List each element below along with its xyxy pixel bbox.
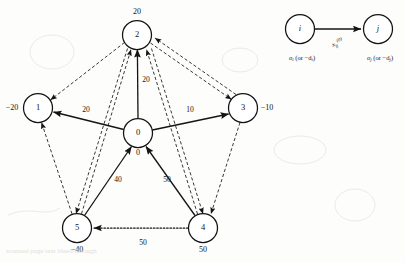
arc-0-to-3 bbox=[152, 114, 228, 130]
node-2[interactable]: 2 bbox=[123, 21, 152, 50]
node-2-id: 2 bbox=[135, 29, 139, 39]
arc-0-to-1 bbox=[54, 112, 124, 130]
legend-arc-flow-label: xij(0) bbox=[329, 36, 344, 50]
legend-label-j-mid: (or −d bbox=[372, 54, 391, 62]
legend-label-i-suffix: ) bbox=[313, 54, 315, 62]
arc-2-to-4 bbox=[152, 49, 204, 215]
legend-arc-sup: (0) bbox=[336, 36, 343, 43]
arc-label-0-to-2: 20 bbox=[142, 75, 150, 84]
arc-label-0-to-3: 10 bbox=[186, 105, 194, 114]
node-4[interactable]: 4 bbox=[189, 214, 218, 243]
scan-bleed-ghosts bbox=[8, 35, 375, 221]
arc-3-to-2 bbox=[155, 38, 236, 95]
node-1-id: 1 bbox=[36, 102, 40, 112]
network-diagram: 0 1 2 3 4 5 0 bbox=[0, 0, 405, 263]
supply-label-node-0: 0 bbox=[136, 148, 140, 157]
scan-bleed-bottom: scanned page text bleed-through bbox=[6, 247, 97, 255]
supply-label-node-4: 50 bbox=[199, 245, 207, 254]
node-5[interactable]: 5 bbox=[63, 214, 92, 243]
node-5-id: 5 bbox=[75, 222, 79, 232]
legend-arc-sub: ij bbox=[335, 43, 340, 49]
arc-2-to-5 bbox=[76, 49, 128, 214]
node-0-id: 0 bbox=[136, 127, 140, 137]
arc-5-to-1 bbox=[42, 123, 73, 214]
node-3-id: 3 bbox=[241, 102, 245, 112]
arc-2-to-1 bbox=[51, 43, 125, 101]
legend-label-j: oj (or −dj) bbox=[367, 54, 393, 62]
supply-label-node-3: −10 bbox=[261, 103, 274, 112]
arc-3-to-4 bbox=[211, 123, 240, 214]
arc-label-4-to-5: 50 bbox=[139, 238, 147, 247]
supply-label-node-2: 20 bbox=[133, 7, 141, 16]
legend-label-j-suffix: ) bbox=[391, 54, 393, 62]
legend-group: i j xij(0) oi (or −di) oj (or −dj) bbox=[286, 15, 394, 62]
arc-0-to-2 bbox=[137, 50, 138, 119]
node-3[interactable]: 3 bbox=[229, 94, 258, 123]
legend-node-j[interactable]: j bbox=[364, 15, 393, 44]
legend-label-i-mid: (or −d bbox=[294, 54, 313, 62]
arc-label-0-to-1: 20 bbox=[82, 105, 90, 114]
arc-2-to-3 bbox=[151, 43, 232, 100]
supply-label-node-1: −20 bbox=[6, 103, 19, 112]
figure-root: 0 1 2 3 4 5 0 bbox=[0, 0, 405, 263]
legend-node-i[interactable]: i bbox=[286, 15, 315, 44]
arc-label-4-to-0: 50 bbox=[163, 175, 171, 184]
node-1[interactable]: 1 bbox=[24, 94, 53, 123]
arc-4-to-2 bbox=[147, 50, 198, 215]
node-0[interactable]: 0 bbox=[124, 119, 153, 148]
arc-label-5-to-0: 40 bbox=[114, 175, 122, 184]
legend-label-i: oi (or −di) bbox=[289, 54, 315, 62]
